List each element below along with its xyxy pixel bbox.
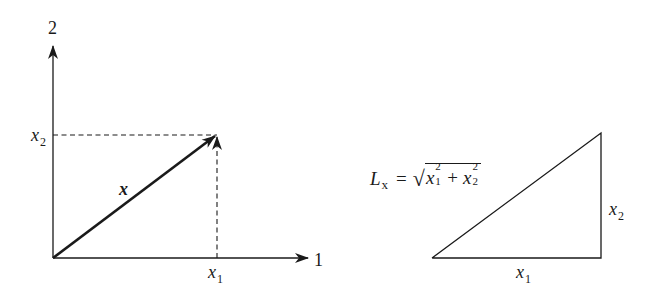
term2-subscript: 2	[472, 175, 478, 187]
length-formula: Lx = √ x21 + x22	[370, 164, 481, 191]
vector-x-arrow	[53, 136, 215, 258]
term1-superscript: 2	[435, 160, 441, 172]
square-root: √ x21 + x22	[413, 164, 482, 191]
triangle-horizontal-side-label: x1	[516, 263, 531, 281]
term2-scripts: 22	[471, 166, 479, 184]
term2-base: x	[463, 167, 471, 189]
x1-axis-value-label: x1	[208, 263, 223, 281]
formula-lhs-L: L	[370, 168, 381, 190]
term1-scripts: 21	[434, 166, 442, 184]
x2-base: x	[31, 125, 39, 145]
diagram-canvas	[0, 0, 646, 303]
right-triangle	[432, 133, 601, 258]
axis-2-label: 2	[48, 19, 57, 37]
term2-superscript: 2	[472, 160, 478, 172]
x2-axis-value-label: x2	[31, 126, 46, 144]
axis-1-label: 1	[314, 251, 323, 269]
side-x1-subscript: 1	[525, 272, 531, 286]
term1-subscript: 1	[435, 175, 441, 187]
formula-lhs-subscript: x	[382, 177, 389, 193]
radicand: x21 + x22	[425, 163, 482, 189]
formula-plus: +	[447, 167, 458, 189]
formula-equals: =	[396, 168, 407, 190]
x1-subscript: 1	[217, 272, 223, 286]
sqrt-icon: √	[413, 166, 425, 192]
vector-x-label: x	[119, 180, 128, 198]
side-x2-base: x	[609, 199, 617, 219]
x2-subscript: 2	[40, 135, 46, 149]
term1-base: x	[426, 167, 434, 189]
triangle-vertical-side-label: x2	[609, 200, 624, 218]
x1-base: x	[208, 262, 216, 282]
side-x2-subscript: 2	[618, 209, 624, 223]
side-x1-base: x	[516, 262, 524, 282]
